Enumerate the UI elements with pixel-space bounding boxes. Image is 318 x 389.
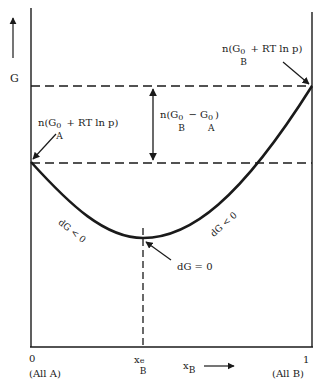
x-axis-label: xB	[183, 361, 195, 371]
left-endpoint-pointer-icon	[33, 134, 56, 159]
right-endpoint-label: n(G0B + RT ln p)	[222, 44, 302, 54]
minimum-label: dG = 0	[177, 262, 213, 272]
left-endpoint-label: n(G0A + RT ln p)	[38, 118, 118, 128]
y-axis-label: G	[10, 73, 19, 84]
x-tick-1-caption: (All B)	[272, 369, 304, 379]
right-endpoint-pointer-icon	[283, 62, 309, 84]
diagram-canvas	[0, 0, 318, 389]
minimum-pointer-icon	[146, 242, 171, 260]
x-tick-1: 1	[303, 355, 309, 365]
difference-label: n(G0B − G0A)	[160, 110, 219, 120]
gibbs-energy-diagram: G n(G0B + RT ln p) n(G0A + RT ln p) n(G0…	[0, 0, 318, 389]
equilibrium-tick-label: xeB	[134, 355, 147, 365]
x-tick-0: 0	[29, 354, 35, 364]
x-tick-0-caption: (All A)	[29, 369, 61, 379]
